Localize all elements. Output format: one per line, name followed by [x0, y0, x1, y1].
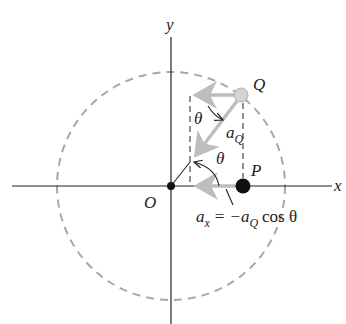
point-Q	[234, 88, 248, 102]
y-axis-label: y	[164, 15, 174, 34]
aQ-label: aQ	[226, 123, 244, 146]
theta-top-label: θ	[194, 109, 202, 128]
point-P	[236, 179, 251, 194]
x-axis-label: x	[333, 176, 342, 195]
origin-point	[167, 182, 175, 190]
origin-label: O	[144, 193, 156, 212]
p-label: P	[250, 161, 261, 180]
q-label: Q	[253, 75, 265, 94]
theta-top-arc-icon	[208, 106, 223, 120]
circular-motion-diagram: y x O Q P θ θ aQ ax=−aQcos θ	[0, 0, 346, 324]
theta-mid-label: θ	[216, 149, 224, 168]
equation-leader-line	[226, 189, 233, 205]
diagram-canvas: y x O Q P θ θ aQ ax=−aQcos θ	[0, 0, 346, 324]
ax-equation: ax=−aQcos θ	[196, 207, 297, 230]
radius-segment	[171, 162, 190, 186]
